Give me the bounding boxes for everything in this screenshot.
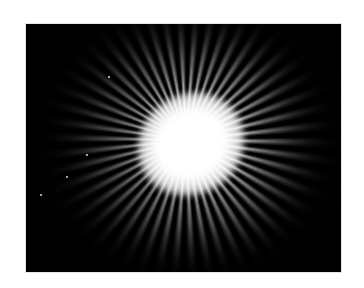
speck [40,194,42,196]
photo [26,24,341,272]
speck [108,76,110,78]
speck [66,176,68,178]
speck [86,154,88,156]
